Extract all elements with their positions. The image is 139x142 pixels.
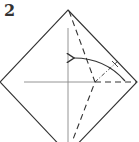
origami-diagram [0,0,139,142]
valley-fold-line [69,11,95,142]
paper-outline [0,10,137,142]
